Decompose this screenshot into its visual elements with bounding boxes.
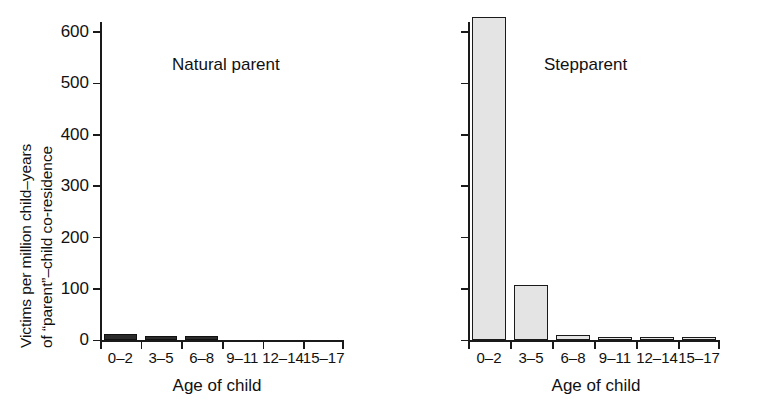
x-axis-tick-label: 6–8 xyxy=(189,349,214,366)
y-axis-tick xyxy=(93,83,100,85)
x-axis-tick xyxy=(303,342,305,349)
x-axis-tick-label: 6–8 xyxy=(560,349,585,366)
bar xyxy=(104,334,137,341)
y-axis-tick-label: 400 xyxy=(61,125,89,145)
bar xyxy=(185,336,218,340)
bar xyxy=(514,285,548,341)
x-axis-tick-label: 9–11 xyxy=(226,349,258,366)
y-axis-tick xyxy=(461,288,468,290)
x-axis-tick xyxy=(510,342,512,349)
x-axis-tick xyxy=(222,342,224,349)
bar xyxy=(640,337,674,340)
y-axis-tick-label: 500 xyxy=(61,73,89,93)
panel-stepparent: Stepparent 0–23–56–89–1112–1415–17 Age o… xyxy=(432,0,742,416)
bar xyxy=(598,337,632,340)
x-axis-tick-label: 15–17 xyxy=(303,349,345,366)
x-axis-tick-label: 15–17 xyxy=(678,349,720,366)
y-axis-tick-label: 100 xyxy=(61,279,89,299)
y-axis-tick xyxy=(93,185,100,187)
y-axis-title: Victims per million child–years of “pare… xyxy=(0,0,48,356)
x-axis-tick xyxy=(141,342,143,349)
y-axis-tick xyxy=(93,237,100,239)
x-axis-tick xyxy=(181,342,183,349)
x-axis-tick-label: 12–14 xyxy=(262,349,304,366)
y-axis-tick xyxy=(93,288,100,290)
x-axis-tick xyxy=(718,342,720,349)
x-tick-label-group-stepparent: 0–23–56–89–1112–1415–17 xyxy=(432,349,742,371)
y-axis-tick-label: 600 xyxy=(61,22,89,42)
bar-chart-figure: Victims per million child–years of “pare… xyxy=(0,0,757,416)
plot-area-natural-parent: 0100200300400500600 xyxy=(100,22,344,342)
y-axis-tick xyxy=(461,31,468,33)
x-axis-tick xyxy=(636,342,638,349)
y-axis-tick xyxy=(93,134,100,136)
x-axis-tick xyxy=(594,342,596,349)
y-axis-tick xyxy=(461,185,468,187)
x-axis-tick xyxy=(468,342,470,349)
x-axis-tick-label: 9–11 xyxy=(599,349,631,366)
y-axis-line xyxy=(100,22,102,342)
bar xyxy=(472,17,506,341)
x-axis-tick xyxy=(552,342,554,349)
y-axis-tick xyxy=(93,340,100,342)
y-axis-tick-label: 0 xyxy=(80,330,89,350)
y-axis-line xyxy=(468,22,470,342)
x-axis-title-stepparent: Age of child xyxy=(450,376,742,396)
y-axis-tick xyxy=(461,83,468,85)
bar xyxy=(145,336,178,341)
x-axis-tick-label: 0–2 xyxy=(476,349,501,366)
y-axis-tick-label: 300 xyxy=(61,176,89,196)
x-axis-tick-label: 12–14 xyxy=(636,349,678,366)
x-axis-tick-label: 0–2 xyxy=(108,349,133,366)
x-axis-title-natural-parent: Age of child xyxy=(82,376,352,396)
y-axis-tick xyxy=(461,237,468,239)
bar xyxy=(556,335,590,340)
y-axis-tick xyxy=(461,340,468,342)
bar xyxy=(682,337,716,340)
x-axis-tick xyxy=(100,342,102,349)
x-axis-tick-label: 3–5 xyxy=(518,349,543,366)
panel-natural-parent: Natural parent 0100200300400500600 0–23–… xyxy=(52,0,352,416)
y-axis-title-line-1: Victims per million child–years xyxy=(17,144,35,348)
x-axis-tick xyxy=(263,342,265,349)
y-axis-tick xyxy=(93,31,100,33)
x-axis-tick-label: 3–5 xyxy=(148,349,173,366)
y-axis-tick xyxy=(461,134,468,136)
x-tick-label-group-natural-parent: 0–23–56–89–1112–1415–17 xyxy=(52,349,352,371)
x-axis-tick xyxy=(678,342,680,349)
plot-area-stepparent xyxy=(468,22,720,342)
y-axis-tick-label: 200 xyxy=(61,228,89,248)
x-axis-tick xyxy=(342,342,344,349)
